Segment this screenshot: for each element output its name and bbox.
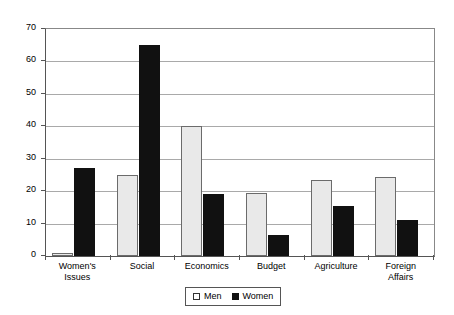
open-square-swatch bbox=[193, 293, 200, 300]
x-tick-mark bbox=[239, 255, 240, 260]
x-axis-label-line: Budget bbox=[239, 261, 304, 272]
bars-layer bbox=[46, 29, 434, 256]
bar-men-1 bbox=[117, 175, 138, 256]
y-tick-label: 40 bbox=[26, 120, 36, 129]
bar-women-3 bbox=[268, 235, 289, 256]
y-tick-label: 0 bbox=[31, 250, 36, 259]
x-axis-label: ForeignAffairs bbox=[368, 261, 433, 283]
x-axis-label: Budget bbox=[239, 261, 304, 272]
bar-men-2 bbox=[181, 126, 202, 256]
x-tick-mark bbox=[433, 255, 434, 260]
filled-square-swatch bbox=[232, 293, 239, 300]
bar-women-0 bbox=[74, 168, 95, 256]
legend-item-women: Women bbox=[232, 292, 274, 301]
bar-women-2 bbox=[203, 194, 224, 256]
bar-women-1 bbox=[139, 45, 160, 256]
x-axis-label: Social bbox=[110, 261, 175, 272]
legend-item-label: Women bbox=[243, 292, 274, 301]
legend-item-men: Men bbox=[193, 292, 222, 301]
x-axis-label-line: Economics bbox=[174, 261, 239, 272]
bar-men-3 bbox=[246, 193, 267, 256]
x-axis-label-line: Issues bbox=[45, 272, 110, 283]
x-axis-label-line: Agriculture bbox=[304, 261, 369, 272]
x-axis-label: Economics bbox=[174, 261, 239, 272]
x-tick-mark bbox=[304, 255, 305, 260]
x-axis-label: Agriculture bbox=[304, 261, 369, 272]
x-axis-label-line: Social bbox=[110, 261, 175, 272]
y-tick-label: 50 bbox=[26, 88, 36, 97]
bar-men-0 bbox=[52, 253, 73, 256]
x-axis-label-line: Foreign bbox=[368, 261, 433, 272]
x-tick-mark bbox=[45, 255, 46, 260]
bar-men-4 bbox=[311, 180, 332, 256]
x-axis-label: Women'sIssues bbox=[45, 261, 110, 283]
y-axis: 010203040506070 bbox=[0, 0, 45, 315]
bar-chart-figure: 010203040506070 Women'sIssuesSocialEcono… bbox=[0, 0, 454, 315]
legend-item-label: Men bbox=[204, 292, 222, 301]
x-axis-label-line: Women's bbox=[45, 261, 110, 272]
bar-women-4 bbox=[333, 206, 354, 256]
x-tick-mark bbox=[174, 255, 175, 260]
x-axis-label-line: Affairs bbox=[368, 272, 433, 283]
bar-women-5 bbox=[397, 220, 418, 256]
plot-area bbox=[45, 28, 435, 257]
y-tick-label: 60 bbox=[26, 55, 36, 64]
y-tick-label: 70 bbox=[26, 23, 36, 32]
y-tick-label: 20 bbox=[26, 185, 36, 194]
bar-men-5 bbox=[375, 177, 396, 256]
y-tick-label: 10 bbox=[26, 218, 36, 227]
x-tick-mark bbox=[110, 255, 111, 260]
x-tick-mark bbox=[368, 255, 369, 260]
chart-legend: MenWomen bbox=[185, 287, 281, 306]
y-tick-label: 30 bbox=[26, 153, 36, 162]
